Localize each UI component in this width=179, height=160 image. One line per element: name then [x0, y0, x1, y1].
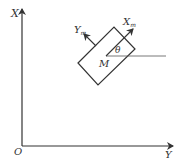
angle-label: θ — [115, 45, 121, 55]
global-y-axis-label: Y — [165, 149, 173, 160]
coordinate-diagram: X O Y Xm Ym M θ — [0, 0, 179, 160]
origin-label: O — [14, 146, 22, 157]
center-point-label: M — [98, 58, 110, 69]
body-y-axis-label: Ym — [74, 24, 87, 36]
body-x-axis-label: Xm — [122, 16, 136, 28]
global-x-axis-label: X — [10, 7, 20, 20]
